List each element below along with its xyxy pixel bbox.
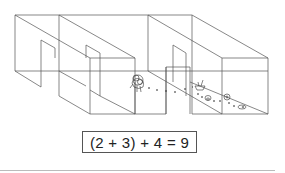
bowl-icon [238, 105, 246, 109]
equation-text: (2 + 3) + 4 = 9 [90, 134, 189, 151]
creature-icon [130, 75, 144, 92]
wall-panel-2 [59, 15, 135, 114]
basket-icon [205, 96, 211, 101]
front-room-box [90, 58, 135, 114]
divider-line [0, 170, 275, 171]
equation-box: (2 + 3) + 4 = 9 [82, 131, 197, 153]
